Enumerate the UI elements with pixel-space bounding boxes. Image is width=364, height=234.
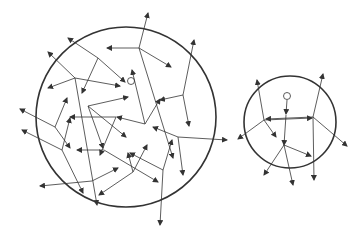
- small-circle-group: [238, 74, 347, 185]
- large-circle-group: [20, 13, 227, 225]
- large-circle: [36, 27, 216, 207]
- small-circle: [244, 76, 336, 168]
- large-arrows: [20, 13, 227, 225]
- small-origin-marker: [284, 93, 291, 100]
- diagram-canvas: [0, 0, 364, 234]
- large-origin-marker: [128, 78, 135, 85]
